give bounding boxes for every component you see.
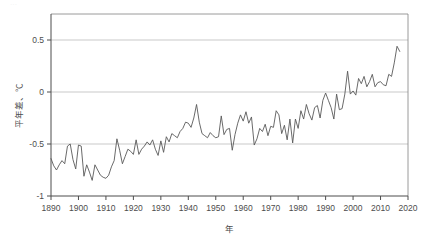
- y-tick-label-0: 0.5: [32, 35, 44, 45]
- corner-watermark: ···: [10, 1, 17, 8]
- x-tick-label-3: 1920: [124, 203, 143, 213]
- x-axis-title: 年: [225, 224, 234, 234]
- x-tick-label-11: 2000: [344, 203, 363, 213]
- x-tick-label-0: 1890: [42, 203, 61, 213]
- y-tick-label-1: 0: [39, 87, 44, 97]
- y-tick-label-3: -1: [36, 191, 44, 201]
- y-tick-label-2: -0.5: [29, 139, 44, 149]
- y-axis-title: 平年差、℃: [14, 83, 24, 128]
- temperature-anomaly-chart: 0.50-0.5-1 18901900191019201930194019501…: [0, 0, 426, 238]
- x-tick-label-1: 1900: [69, 203, 88, 213]
- x-tick-label-9: 1980: [289, 203, 308, 213]
- x-tick-label-10: 1990: [316, 203, 335, 213]
- x-tick-label-13: 2020: [399, 203, 418, 213]
- x-tick-label-7: 1960: [234, 203, 253, 213]
- x-tick-label-12: 2010: [371, 203, 390, 213]
- x-tick-label-8: 1970: [261, 203, 280, 213]
- x-tick-label-2: 1910: [96, 203, 115, 213]
- x-tick-label-6: 1950: [206, 203, 225, 213]
- x-tick-label-4: 1930: [151, 203, 170, 213]
- chart-canvas: 0.50-0.5-1 18901900191019201930194019501…: [0, 0, 426, 238]
- x-tick-label-5: 1940: [179, 203, 198, 213]
